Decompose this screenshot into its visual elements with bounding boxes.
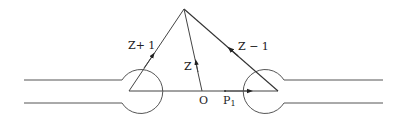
label-origin: O (199, 94, 208, 107)
label-p-subscript: 1 (230, 99, 235, 108)
contour-diagram: Z+ 1 Z − 1 Z O P1 (0, 0, 404, 121)
left-branch-cut (24, 80, 122, 103)
label-z-minus-1: Z − 1 (238, 40, 269, 53)
p1-point (224, 90, 226, 92)
label-z: Z (184, 60, 192, 73)
right-branch-cut (284, 80, 383, 103)
label-z-plus-1: Z+ 1 (128, 39, 155, 52)
z-vector (184, 9, 202, 91)
label-p1: P1 (223, 94, 236, 108)
